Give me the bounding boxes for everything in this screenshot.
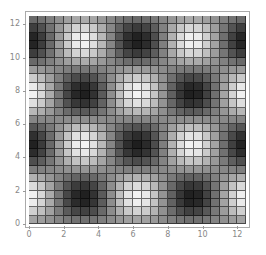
density-cell xyxy=(133,157,142,165)
density-cell xyxy=(185,83,194,91)
density-cell xyxy=(142,74,151,82)
density-cell xyxy=(168,24,177,32)
density-cell xyxy=(237,58,246,66)
density-cell xyxy=(142,174,151,182)
density-cell xyxy=(159,132,168,140)
density-cell xyxy=(107,83,116,91)
density-cell xyxy=(159,83,168,91)
density-cell xyxy=(38,66,47,74)
density-cell xyxy=(107,99,116,107)
density-cell xyxy=(64,157,73,165)
density-cell xyxy=(72,66,81,74)
density-cell xyxy=(116,83,125,91)
density-cell xyxy=(151,91,160,99)
density-cell xyxy=(107,41,116,49)
density-cell xyxy=(168,58,177,66)
density-cell xyxy=(55,41,64,49)
density-cell xyxy=(237,108,246,116)
density-cell xyxy=(124,174,133,182)
density-cell xyxy=(116,66,125,74)
density-cell xyxy=(151,124,160,132)
density-cell xyxy=(55,132,64,140)
density-cell xyxy=(168,16,177,24)
density-cell xyxy=(98,157,107,165)
density-cell xyxy=(29,49,38,57)
density-cell xyxy=(203,99,212,107)
density-cell xyxy=(116,124,125,132)
x-tick-mark xyxy=(237,226,238,229)
density-cell xyxy=(177,66,186,74)
density-cell xyxy=(98,116,107,124)
density-cell xyxy=(142,141,151,149)
density-cell xyxy=(72,141,81,149)
density-cell xyxy=(229,66,238,74)
density-cell xyxy=(133,124,142,132)
density-cell xyxy=(90,182,99,190)
density-cell xyxy=(81,58,90,66)
density-cell xyxy=(211,91,220,99)
density-cell xyxy=(168,132,177,140)
density-cell xyxy=(203,108,212,116)
density-cell xyxy=(211,132,220,140)
density-cell xyxy=(159,99,168,107)
density-cell xyxy=(185,199,194,207)
density-cell xyxy=(194,124,203,132)
density-cell xyxy=(151,66,160,74)
density-cell xyxy=(90,24,99,32)
x-tick: 6 xyxy=(131,231,136,239)
density-cell xyxy=(177,16,186,24)
density-cell xyxy=(229,49,238,57)
density-cell xyxy=(64,141,73,149)
density-cell xyxy=(124,83,133,91)
density-cell xyxy=(151,132,160,140)
density-cell xyxy=(177,141,186,149)
density-cell xyxy=(177,116,186,124)
density-cell xyxy=(116,58,125,66)
density-cell xyxy=(229,157,238,165)
density-cell xyxy=(46,207,55,215)
density-cell xyxy=(211,99,220,107)
density-cell xyxy=(211,16,220,24)
density-cell xyxy=(64,66,73,74)
density-cell xyxy=(151,33,160,41)
density-cell xyxy=(107,58,116,66)
density-cell xyxy=(133,83,142,91)
density-cell xyxy=(55,58,64,66)
density-cell xyxy=(124,108,133,116)
density-cell xyxy=(72,116,81,124)
density-cell xyxy=(116,116,125,124)
density-cell xyxy=(185,174,194,182)
density-cell xyxy=(98,149,107,157)
density-cell xyxy=(194,207,203,215)
density-cell xyxy=(81,174,90,182)
density-cell xyxy=(29,141,38,149)
density-cell xyxy=(211,191,220,199)
density-cell xyxy=(90,58,99,66)
density-cell xyxy=(220,182,229,190)
density-cell xyxy=(159,58,168,66)
density-cell xyxy=(142,33,151,41)
density-cell xyxy=(177,74,186,82)
density-cell xyxy=(220,166,229,174)
density-cell xyxy=(90,174,99,182)
density-cell xyxy=(151,199,160,207)
density-cell xyxy=(177,108,186,116)
density-cell xyxy=(203,58,212,66)
density-cell xyxy=(55,49,64,57)
density-cell xyxy=(98,141,107,149)
density-cell xyxy=(98,182,107,190)
y-tick-mark xyxy=(23,191,26,192)
density-cell xyxy=(72,182,81,190)
density-cell xyxy=(107,108,116,116)
density-cell xyxy=(237,149,246,157)
density-cell xyxy=(237,216,246,224)
density-plot xyxy=(29,16,246,224)
density-cell xyxy=(81,199,90,207)
density-cell xyxy=(220,157,229,165)
density-cell xyxy=(203,49,212,57)
density-cell xyxy=(90,99,99,107)
density-cell xyxy=(55,141,64,149)
density-cell xyxy=(46,33,55,41)
density-cell xyxy=(55,124,64,132)
density-cell xyxy=(29,33,38,41)
